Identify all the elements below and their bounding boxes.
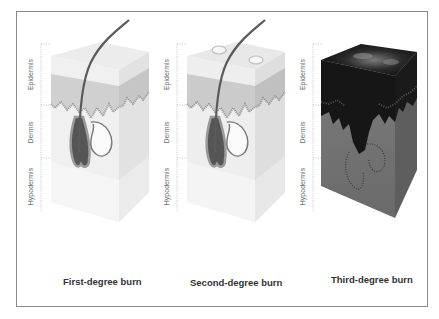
caption-first-degree-burn: First-degree burn xyxy=(63,276,142,287)
layer-bracket-icon xyxy=(177,44,187,212)
layer-label-dermis: Dermis xyxy=(26,108,35,158)
panel-first-degree-burn: Epidermis Dermis Hypodermis xyxy=(17,12,157,252)
layer-label-dermis: Dermis xyxy=(162,108,171,158)
skin-block-illustration xyxy=(153,12,293,252)
layer-label-hypodermis: Hypodermis xyxy=(298,162,307,212)
caption-third-degree-burn: Third-degree burn xyxy=(331,274,413,285)
layer-label-epidermis: Epidermis xyxy=(298,50,307,100)
panel-second-degree-burn: Epidermis Dermis Hypodermis xyxy=(153,12,293,252)
layer-label-epidermis: Epidermis xyxy=(26,50,35,100)
caption-second-degree-burn: Second-degree burn xyxy=(190,277,282,288)
layer-label-dermis: Dermis xyxy=(298,108,307,158)
figure-frame: Epidermis Dermis Hypodermis xyxy=(16,11,428,307)
panel-third-degree-burn: Epidermis Dermis Hypodermis xyxy=(289,12,429,252)
skin-block-illustration xyxy=(289,12,429,252)
layer-bracket-icon xyxy=(41,44,51,212)
skin-block-illustration xyxy=(17,12,157,252)
layer-label-hypodermis: Hypodermis xyxy=(162,162,171,212)
layer-label-hypodermis: Hypodermis xyxy=(26,162,35,212)
layer-label-epidermis: Epidermis xyxy=(162,50,171,100)
